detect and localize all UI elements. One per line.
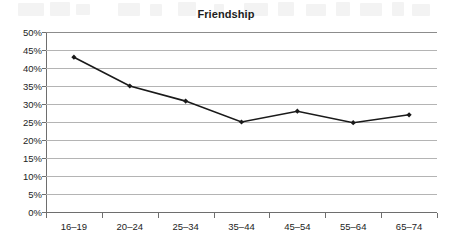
x-axis-tick-mark	[269, 213, 270, 218]
x-axis-tick-label: 16–19	[61, 221, 87, 232]
x-axis-tick-mark	[46, 213, 47, 218]
chart-figure: Friendship 0%5%10%15%20%25%30%35%40%45%5…	[0, 0, 452, 248]
friendship-line	[74, 57, 409, 123]
x-axis-tick-label: 20–24	[117, 221, 143, 232]
data-point-marker	[183, 99, 188, 104]
x-axis-tick-label: 45–54	[284, 221, 310, 232]
x-axis-tick-label: 65–74	[396, 221, 422, 232]
x-axis-tick-mark	[325, 213, 326, 218]
x-axis-tick-mark	[158, 213, 159, 218]
data-series-layer	[0, 0, 452, 248]
data-point-marker	[406, 112, 411, 117]
friendship-markers	[71, 55, 411, 126]
x-axis-tick-mark	[102, 213, 103, 218]
x-axis-tick-mark	[381, 213, 382, 218]
data-point-marker	[239, 119, 244, 124]
data-point-marker	[351, 120, 356, 125]
x-axis-tick-label: 25–34	[172, 221, 198, 232]
x-axis-tick-label: 35–44	[228, 221, 254, 232]
x-axis-tick-mark	[437, 213, 438, 218]
data-point-marker	[295, 109, 300, 114]
x-axis-tick-mark	[214, 213, 215, 218]
x-axis-tick-label: 55–64	[340, 221, 366, 232]
